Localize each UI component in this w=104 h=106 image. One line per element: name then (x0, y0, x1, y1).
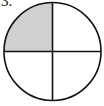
fraction-circle-diagram (0, 0, 104, 106)
